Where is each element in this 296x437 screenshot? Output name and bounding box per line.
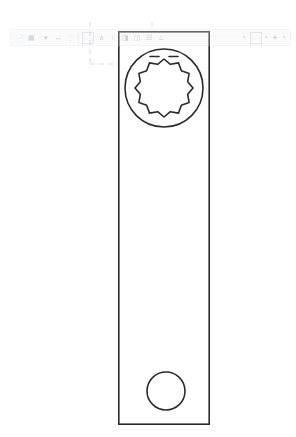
dropdown-icon[interactable]: ▾ bbox=[42, 31, 51, 44]
ghosted-overlay-toolbar[interactable]: 📄 ▦ ▾ ↔ ⋮ ∧ ○ ◨ ◫ ☷ ⊥ ▾ ▾ ✦ ▾ bbox=[10, 29, 291, 46]
line-tool-icon[interactable] bbox=[82, 32, 94, 44]
mirror-tool-icon[interactable]: ◫ bbox=[133, 31, 142, 44]
chevron-down-icon-3[interactable]: ▾ bbox=[283, 31, 286, 44]
cad-drawing-canvas[interactable] bbox=[0, 0, 296, 437]
circle-tool-icon[interactable]: ○ bbox=[109, 31, 118, 44]
dimension-icon[interactable]: ⋮ bbox=[66, 31, 75, 44]
toolbar-separator-1 bbox=[78, 33, 79, 43]
grid-icon[interactable] bbox=[250, 32, 262, 44]
arc-tool-icon[interactable]: ∧ bbox=[97, 31, 106, 44]
trim-tool-icon[interactable]: ◨ bbox=[121, 31, 130, 44]
application-root: 📄 ▦ ▾ ↔ ⋮ ∧ ○ ◨ ◫ ☷ ⊥ ▾ ▾ ✦ ▾ bbox=[0, 0, 296, 437]
pattern-icon[interactable]: ☷ bbox=[145, 31, 154, 44]
constraint-icon[interactable]: ⊥ bbox=[157, 31, 166, 44]
snap-icon[interactable]: ✦ bbox=[271, 31, 280, 44]
pin-hole-circle[interactable] bbox=[147, 372, 185, 410]
file-icon[interactable]: 📄 bbox=[15, 31, 24, 44]
layers-icon[interactable]: ▦ bbox=[27, 31, 36, 44]
measure-icon[interactable]: ↔ bbox=[54, 31, 63, 44]
chevron-down-icon[interactable]: ▾ bbox=[243, 31, 246, 44]
chevron-down-icon-2[interactable]: ▾ bbox=[265, 31, 268, 44]
